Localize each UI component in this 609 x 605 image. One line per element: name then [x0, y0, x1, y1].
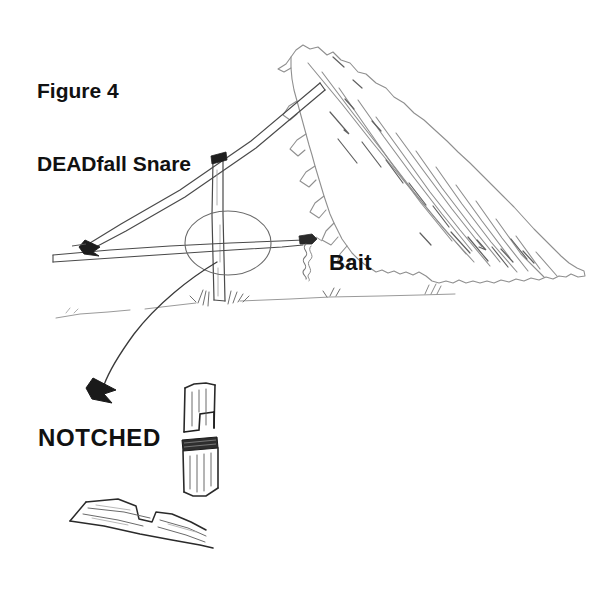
figure-number: Figure 4 — [37, 79, 191, 103]
lever-post-notch-joint — [211, 152, 227, 164]
vertical-support-post — [212, 157, 225, 301]
notched-stick-detail — [70, 499, 213, 548]
figure-caption: DEADfall Snare — [37, 152, 191, 176]
notched-post-detail — [182, 383, 218, 496]
grass-tufts — [66, 284, 441, 313]
lever-bait-notch — [72, 240, 100, 256]
curved-pointer-arrow — [86, 262, 217, 403]
ground-line — [56, 294, 455, 318]
bait-lure — [299, 234, 322, 281]
notched-label: NOTCHED — [38, 424, 161, 452]
notched-post-band — [182, 437, 218, 451]
leaning-rock-slab — [278, 45, 585, 283]
figure-canvas: Figure 4 DEADfall Snare Bait NOTCHED — [0, 0, 609, 605]
bait-label: Bait — [329, 250, 372, 276]
page-title: Figure 4 DEADfall Snare — [37, 30, 191, 225]
rock-texture-accents — [330, 57, 534, 267]
